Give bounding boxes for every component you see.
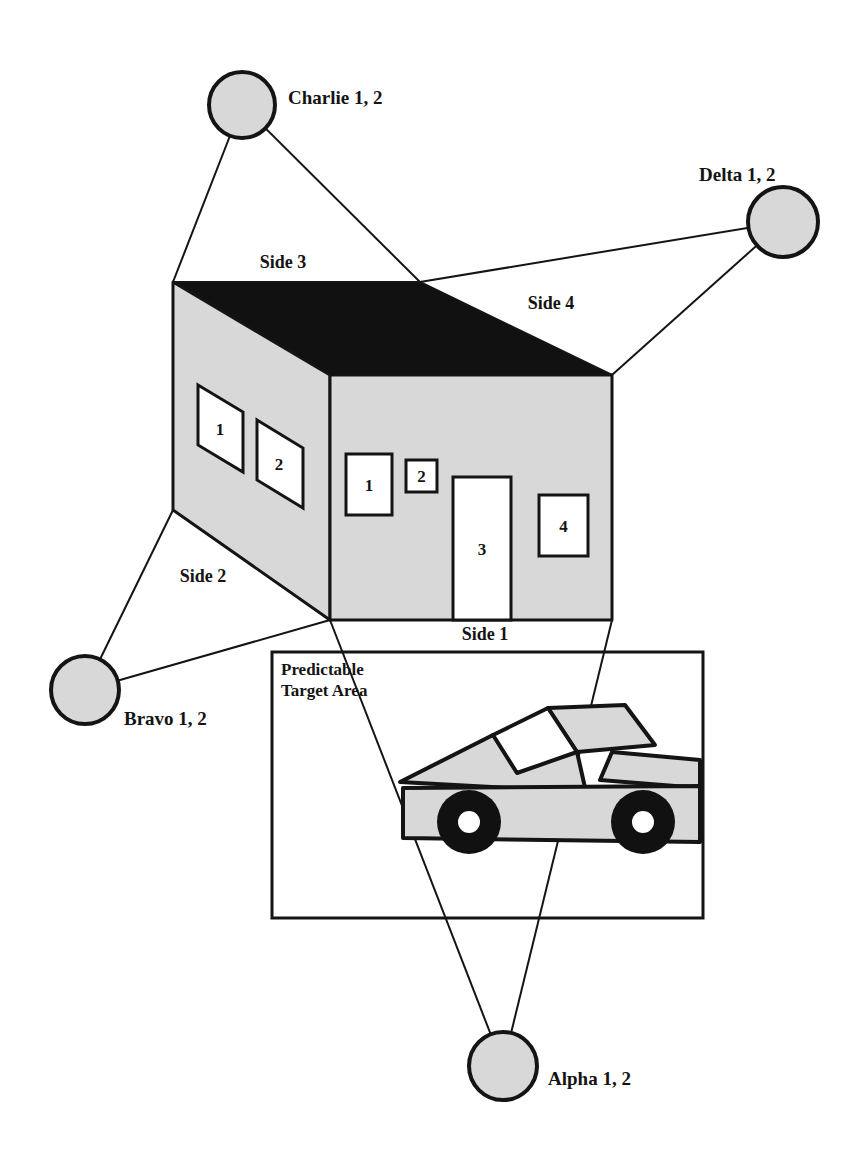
target-area-label-line2: Target Area — [281, 681, 368, 700]
observation-post-diagram: Predictable Target Area 1 2 — [0, 0, 861, 1174]
front-window-1-number: 1 — [365, 476, 374, 495]
pickup-truck — [400, 705, 700, 854]
station-label-alpha: Alpha 1, 2 — [548, 1068, 631, 1089]
side-label-side1: Side 1 — [462, 624, 509, 644]
diagram-root: Predictable Target Area 1 2 — [0, 0, 861, 1174]
front-window-4-number: 4 — [559, 517, 568, 536]
station-circle-charlie[interactable] — [209, 72, 275, 138]
station-circle-alpha[interactable] — [469, 1032, 537, 1100]
left-window-2-number: 2 — [275, 455, 284, 474]
sight-line-delta-left — [420, 222, 783, 282]
side-label-side4: Side 4 — [528, 293, 575, 313]
station-label-charlie: Charlie 1, 2 — [288, 87, 382, 108]
station-label-bravo: Bravo 1, 2 — [124, 708, 207, 729]
station-circle-delta[interactable] — [748, 187, 818, 257]
side-label-side3: Side 3 — [260, 252, 307, 272]
station-label-delta: Delta 1, 2 — [699, 164, 776, 185]
truck-rear-hub — [632, 811, 654, 833]
front-door-3-number: 3 — [478, 540, 487, 559]
sight-line-alpha-right — [503, 620, 612, 1066]
truck-front-hub — [458, 811, 480, 833]
truck-bed-rail — [600, 752, 700, 788]
building: 1 2 1 2 3 4 — [173, 282, 612, 620]
front-window-2-number: 2 — [417, 467, 426, 486]
sight-line-bravo-bottom — [85, 620, 330, 690]
station-circle-bravo[interactable] — [51, 656, 119, 724]
side-label-side2: Side 2 — [180, 566, 227, 586]
left-window-1-number: 1 — [216, 420, 225, 439]
target-area-label-line1: Predictable — [281, 660, 364, 679]
